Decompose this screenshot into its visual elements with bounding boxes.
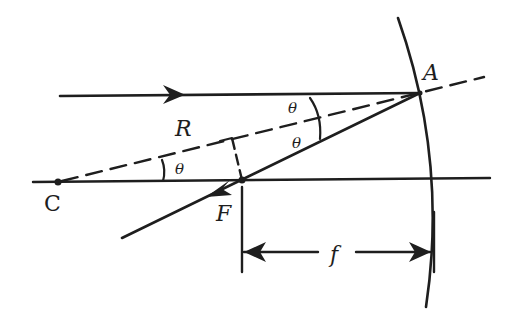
label-point-C: C [44, 191, 61, 216]
mirror-diagram: C A F R f θ θ θ [0, 0, 512, 327]
label-focal-length: f [328, 242, 342, 267]
label-angle-incident: θ [288, 99, 297, 117]
point-F-dot [239, 177, 246, 184]
perpendicular-dashed [232, 138, 242, 180]
optical-axis [33, 178, 490, 182]
angle-arc-center [162, 160, 164, 181]
point-C-dot [55, 179, 62, 186]
reflected-ray-arrow-icon [206, 180, 232, 197]
label-point-F: F [215, 201, 232, 226]
label-point-A: A [421, 60, 439, 85]
point-A-dot [418, 91, 423, 96]
label-angle-center: θ [175, 160, 184, 178]
label-radius: R [174, 116, 192, 141]
incident-ray [60, 93, 420, 96]
reflected-ray [122, 93, 420, 238]
label-angle-reflected: θ [292, 134, 301, 152]
right-angle-mark [220, 138, 232, 141]
